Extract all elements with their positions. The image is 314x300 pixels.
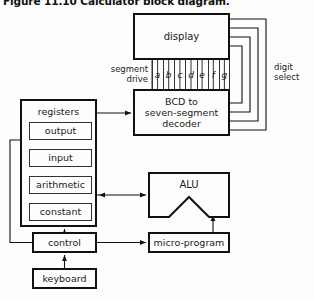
- register-constant-label: constant: [40, 206, 81, 217]
- register-arithmetic[interactable]: arithmetic: [29, 176, 92, 194]
- digit-select-line-1: digit: [274, 62, 293, 72]
- segment-cell-e: e: [197, 62, 208, 87]
- decoder-line-1: BCD to: [165, 96, 198, 107]
- digit-select-label: digit select: [274, 62, 299, 82]
- microprogram-block[interactable]: micro-program: [148, 232, 230, 253]
- alu-block-label: ALU: [148, 179, 230, 190]
- segment-drive-label: segment drive: [104, 64, 148, 84]
- bcd-decoder-block[interactable]: BCD to seven-segment decoder: [133, 89, 230, 136]
- register-arithmetic-label: arithmetic: [36, 179, 85, 190]
- segment-drive-line-2: drive: [126, 74, 148, 84]
- segment-cell-c: c: [174, 62, 185, 87]
- digit-select-line-2: select: [274, 72, 299, 82]
- segment-letter-cells: a b c d e f g: [152, 62, 230, 87]
- register-output-label: output: [45, 125, 76, 136]
- segment-cell-a-label: a: [155, 70, 161, 80]
- decoder-line-2: seven-segment: [145, 107, 218, 118]
- digit-select-loop-1: [230, 19, 266, 130]
- display-block-label: display: [164, 31, 200, 43]
- digit-select-loop-3: [230, 37, 250, 112]
- keyboard-block[interactable]: keyboard: [32, 268, 97, 289]
- control-block[interactable]: control: [32, 232, 97, 253]
- block-diagram-canvas: display BCD to seven-segment decoder reg…: [0, 0, 314, 300]
- segment-drive-line-1: segment: [111, 64, 148, 74]
- segment-cell-b: b: [163, 62, 174, 87]
- decoder-line-3: decoder: [162, 118, 201, 129]
- segment-cell-f: f: [208, 62, 219, 87]
- segment-cell-c-label: c: [177, 70, 182, 80]
- segment-cell-g: g: [219, 62, 230, 87]
- segment-cell-f-label: f: [212, 70, 215, 80]
- control-block-label: control: [48, 237, 81, 248]
- display-block[interactable]: display: [133, 13, 230, 60]
- segment-cell-a: a: [152, 62, 163, 87]
- segment-cell-e-label: e: [199, 70, 205, 80]
- digit-select-loop-2: [230, 28, 258, 121]
- registers-block-title: registers: [22, 106, 95, 117]
- segment-cell-d: d: [185, 62, 196, 87]
- microprogram-block-label: micro-program: [154, 237, 225, 248]
- digit-select-loop-4: [230, 46, 242, 103]
- registers-block[interactable]: registers output input arithmetic consta…: [20, 99, 97, 227]
- register-input[interactable]: input: [29, 149, 92, 167]
- bcd-decoder-block-label: BCD to seven-segment decoder: [145, 96, 218, 130]
- keyboard-block-label: keyboard: [42, 273, 86, 284]
- register-output[interactable]: output: [29, 122, 92, 140]
- segment-cell-d-label: d: [188, 70, 194, 80]
- segment-cell-b-label: b: [166, 70, 172, 80]
- alu-block[interactable]: ALU: [148, 172, 230, 218]
- segment-cell-g-label: g: [222, 70, 228, 80]
- register-constant[interactable]: constant: [29, 203, 92, 221]
- register-input-label: input: [48, 152, 72, 163]
